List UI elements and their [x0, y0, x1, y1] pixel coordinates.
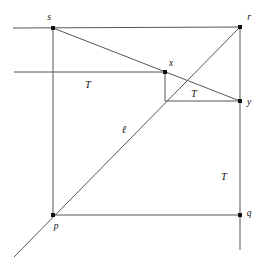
vertex-q	[238, 213, 242, 217]
segments-group	[13, 27, 240, 257]
segment-diagonal-s-to-y	[53, 28, 240, 101]
point-label-q: q	[247, 208, 252, 218]
point-label-y: y	[246, 97, 252, 107]
vertex-y	[238, 99, 242, 103]
vertex-s	[51, 26, 55, 30]
labels-group: srxypqTTTℓ	[47, 12, 252, 231]
figure-canvas: srxypqTTTℓ	[0, 0, 267, 272]
point-label-r: r	[247, 12, 251, 22]
vertex-x	[163, 70, 167, 74]
segment-diagonal-ell-p-to-r	[14, 27, 240, 257]
segment-top-edge-s-r	[13, 27, 240, 28]
point-label-x: x	[168, 58, 174, 68]
region-label-T-left: T	[85, 79, 92, 90]
vertex-r	[238, 25, 242, 29]
region-label-T-inner: T	[191, 88, 198, 99]
vertex-p	[51, 213, 55, 217]
point-label-p: p	[53, 221, 59, 231]
region-label-T-right: T	[221, 171, 228, 182]
geometric-diagram-figure: srxypqTTTℓ	[0, 0, 267, 272]
line-label-ell: ℓ	[122, 124, 127, 135]
point-label-s: s	[47, 12, 51, 22]
